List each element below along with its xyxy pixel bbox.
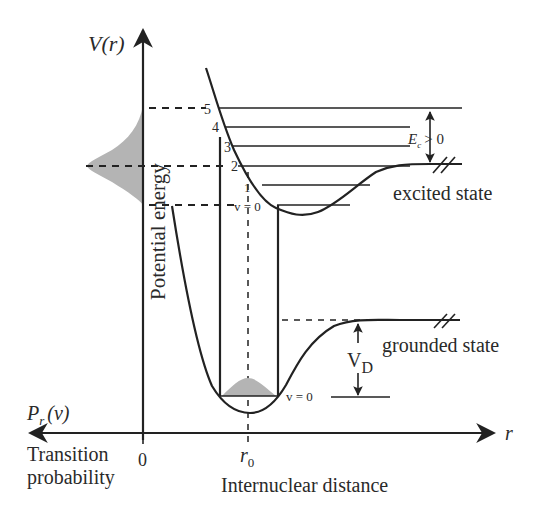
transition-caption-line1: Transition (27, 443, 109, 465)
potential-energy-label: Potential energy (146, 163, 170, 300)
excited-state-label: excited state (393, 182, 493, 204)
level-label-2: 2 (231, 159, 238, 174)
probability-axis-label: Pr(v) (26, 402, 70, 428)
r0-tick-label: r0 (240, 444, 254, 470)
level-label-0: v = 0 (234, 199, 261, 214)
origin-label: 0 (138, 450, 147, 470)
grounded-state-label: grounded state (382, 334, 499, 357)
level-label-3: 3 (224, 140, 231, 155)
vd-label: VD (347, 349, 373, 376)
transition-caption-line2: probability (27, 466, 115, 489)
level-label-4: 4 (212, 120, 219, 135)
y-axis-label: V(r) (88, 31, 125, 56)
internuclear-distance-label: Internuclear distance (221, 474, 388, 496)
r-axis-label: r (505, 422, 513, 444)
level-label-5: 5 (204, 102, 211, 117)
ground-level-0-label: v = 0 (286, 389, 313, 404)
transition-probability-distribution (87, 105, 143, 205)
ec-label: Ec> 0 (407, 131, 444, 150)
level-label-1: 1 (244, 180, 251, 195)
ground-state-wavefunction (222, 378, 276, 396)
potential-energy-diagram: V(r) Potential energy 5 4 3 2 1 v = 0 Ec… (0, 0, 542, 512)
ground-state-curve (172, 206, 460, 413)
